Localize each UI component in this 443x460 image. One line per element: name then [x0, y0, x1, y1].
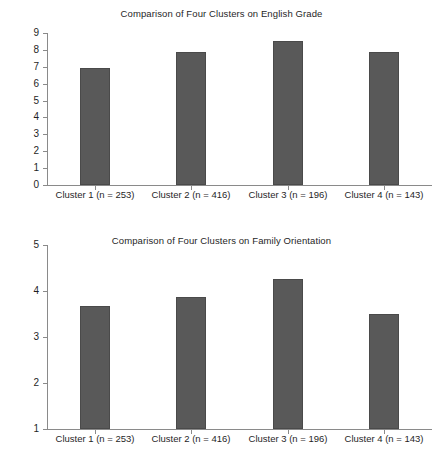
y-axis-tick — [43, 101, 47, 102]
bar — [80, 306, 110, 429]
y-axis-line — [47, 33, 48, 186]
x-axis-tick-label: Cluster 3 (n = 196) — [240, 434, 336, 444]
y-axis-tick-label: 2 — [13, 378, 39, 388]
y-axis-tick-label: 8 — [13, 45, 39, 55]
x-axis-tick-label: Cluster 3 (n = 196) — [240, 190, 336, 200]
plot-area-english-grade: 0123456789Cluster 1 (n = 253)Cluster 2 (… — [0, 0, 443, 230]
y-axis-tick — [43, 134, 47, 135]
y-axis-tick — [43, 151, 47, 152]
y-axis-tick — [43, 429, 47, 430]
x-axis-line — [47, 185, 432, 186]
bar — [369, 314, 399, 429]
bar — [369, 52, 399, 185]
x-axis-tick-label: Cluster 2 (n = 416) — [143, 434, 239, 444]
y-axis-tick-label: 9 — [13, 28, 39, 38]
chart-panel-english-grade: Comparison of Four Clusters on English G… — [0, 0, 443, 230]
y-axis-tick — [43, 185, 47, 186]
chart-panel-family-orientation: Comparison of Four Clusters on Family Or… — [0, 230, 443, 460]
y-axis-tick — [43, 33, 47, 34]
bar — [80, 68, 110, 185]
bar — [176, 297, 206, 429]
x-axis-tick-label: Cluster 4 (n = 143) — [336, 434, 432, 444]
y-axis-line — [47, 245, 48, 430]
y-axis-tick — [43, 337, 47, 338]
x-axis-tick-label: Cluster 1 (n = 253) — [47, 190, 143, 200]
y-axis-tick — [43, 168, 47, 169]
y-axis-tick — [43, 50, 47, 51]
y-axis-tick-label: 3 — [13, 129, 39, 139]
y-axis-tick — [43, 291, 47, 292]
y-axis-tick-label: 5 — [13, 240, 39, 250]
y-axis-tick-label: 7 — [13, 62, 39, 72]
x-axis-tick-label: Cluster 1 (n = 253) — [47, 434, 143, 444]
bar — [273, 41, 303, 185]
y-axis-tick-label: 1 — [13, 424, 39, 434]
y-axis-tick-label: 5 — [13, 96, 39, 106]
x-axis-tick-label: Cluster 4 (n = 143) — [336, 190, 432, 200]
bar — [176, 52, 206, 185]
y-axis-tick-label: 4 — [13, 286, 39, 296]
y-axis-tick — [43, 383, 47, 384]
y-axis-tick-label: 6 — [13, 79, 39, 89]
y-axis-tick-label: 2 — [13, 146, 39, 156]
y-axis-tick-label: 1 — [13, 163, 39, 173]
y-axis-tick — [43, 117, 47, 118]
bar — [273, 279, 303, 429]
x-axis-tick-label: Cluster 2 (n = 416) — [143, 190, 239, 200]
y-axis-tick — [43, 84, 47, 85]
y-axis-tick-label: 3 — [13, 332, 39, 342]
y-axis-tick-label: 4 — [13, 112, 39, 122]
plot-area-family-orientation: 12345Cluster 1 (n = 253)Cluster 2 (n = 4… — [0, 230, 443, 460]
y-axis-tick-label: 0 — [13, 180, 39, 190]
y-axis-tick — [43, 67, 47, 68]
y-axis-tick — [43, 245, 47, 246]
x-axis-line — [47, 429, 432, 430]
